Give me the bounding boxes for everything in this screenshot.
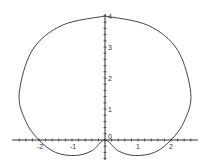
y-tick-label: 1 — [108, 106, 112, 113]
polar-plot: -2-112 01234 — [0, 0, 205, 166]
y-tick-label: 2 — [108, 75, 112, 82]
x-tick-label: -1 — [70, 143, 76, 150]
x-tick-label: 1 — [136, 143, 140, 150]
y-tick-labels: 01234 — [108, 13, 112, 140]
x-tick-label: 2 — [169, 143, 173, 150]
y-tick-label: 3 — [108, 44, 112, 51]
x-tick-label: -2 — [37, 143, 43, 150]
y-tick-label: 0 — [108, 133, 112, 140]
